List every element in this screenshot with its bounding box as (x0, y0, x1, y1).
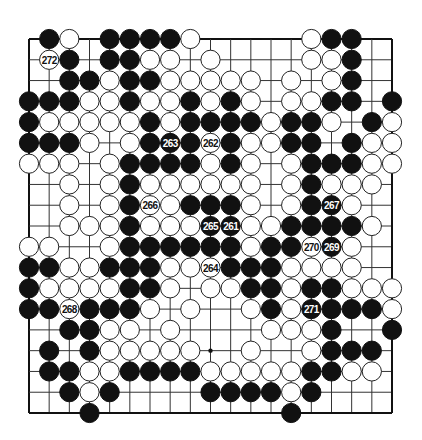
white-stone (120, 341, 139, 360)
numbered-stone-262: 262 (201, 133, 220, 152)
white-stone (19, 154, 38, 173)
white-stone (221, 71, 240, 90)
white-stone (282, 71, 301, 90)
black-stone (19, 279, 38, 298)
black-stone (302, 196, 321, 215)
white-stone (261, 113, 280, 132)
white-stone (302, 50, 321, 69)
black-stone (322, 279, 341, 298)
white-stone (362, 216, 381, 235)
white-stone (241, 300, 260, 319)
numbered-stone-269: 269 (322, 237, 341, 256)
black-stone (322, 320, 341, 339)
white-stone (80, 133, 99, 152)
white-stone (282, 320, 301, 339)
white-stone (161, 71, 180, 90)
white-stone (100, 154, 119, 173)
black-stone (221, 258, 240, 277)
white-stone (100, 92, 119, 111)
black-stone (60, 133, 79, 152)
white-stone (60, 154, 79, 173)
move-number-label: 268 (62, 304, 78, 315)
black-stone (221, 154, 240, 173)
white-stone (261, 133, 280, 152)
white-stone (161, 50, 180, 69)
white-stone (282, 279, 301, 298)
white-stone (241, 133, 260, 152)
white-stone (322, 71, 341, 90)
black-stone (302, 175, 321, 194)
black-stone (40, 362, 59, 381)
white-stone (362, 362, 381, 381)
black-stone (181, 113, 200, 132)
white-stone (282, 154, 301, 173)
black-stone (181, 133, 200, 152)
black-stone (100, 300, 119, 319)
black-stone (161, 362, 180, 381)
white-stone (60, 175, 79, 194)
black-stone (100, 258, 119, 277)
black-stone (60, 362, 79, 381)
white-stone (261, 320, 280, 339)
black-stone (302, 113, 321, 132)
numbered-stone-263: 263 (161, 133, 180, 152)
numbered-stone-266: 266 (140, 196, 159, 215)
star-point (208, 348, 212, 352)
black-stone (120, 196, 139, 215)
move-number-label: 272 (42, 55, 58, 66)
black-stone (342, 216, 361, 235)
white-stone (40, 113, 59, 132)
white-stone (362, 279, 381, 298)
white-stone (161, 92, 180, 111)
black-stone (261, 279, 280, 298)
black-stone (181, 196, 200, 215)
black-stone (342, 300, 361, 319)
numbered-stone-261: 261 (221, 216, 240, 235)
black-stone (120, 216, 139, 235)
black-stone (282, 237, 301, 256)
white-stone (382, 133, 401, 152)
white-stone (140, 175, 159, 194)
go-board: 261262263264265266267268269270271272 (0, 0, 422, 440)
white-stone (140, 92, 159, 111)
black-stone (342, 341, 361, 360)
black-stone (322, 92, 341, 111)
move-number-label: 269 (324, 242, 340, 253)
black-stone (120, 237, 139, 256)
black-stone (40, 300, 59, 319)
black-stone (342, 71, 361, 90)
white-stone (60, 258, 79, 277)
black-stone (342, 29, 361, 48)
black-stone (140, 133, 159, 152)
white-stone (382, 300, 401, 319)
star-points (208, 348, 212, 352)
white-stone (241, 154, 260, 173)
black-stone (302, 154, 321, 173)
white-stone (100, 71, 119, 90)
black-stone (342, 133, 361, 152)
black-stone (120, 50, 139, 69)
white-stone (342, 258, 361, 277)
black-stone (19, 300, 38, 319)
white-stone (60, 279, 79, 298)
white-stone (261, 216, 280, 235)
black-stone (161, 154, 180, 173)
black-stone (362, 113, 381, 132)
white-stone (221, 175, 240, 194)
move-number-label: 270 (304, 242, 320, 253)
black-stone (19, 133, 38, 152)
white-stone (302, 341, 321, 360)
move-number-label: 261 (223, 221, 239, 232)
black-stone (342, 154, 361, 173)
black-stone (100, 50, 119, 69)
black-stone (342, 50, 361, 69)
white-stone (100, 279, 119, 298)
black-stone (302, 362, 321, 381)
white-stone (100, 341, 119, 360)
white-stone (282, 196, 301, 215)
black-stone (241, 258, 260, 277)
black-stone (120, 300, 139, 319)
white-stone (302, 258, 321, 277)
move-number-label: 266 (143, 200, 159, 211)
black-stone (282, 133, 301, 152)
